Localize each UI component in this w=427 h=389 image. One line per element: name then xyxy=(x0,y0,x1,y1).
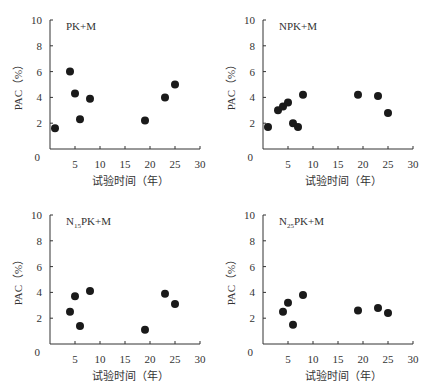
x-tick-label: 15 xyxy=(333,353,345,365)
y-tick-label: 2 xyxy=(250,312,256,324)
scatter-plot: 024681051015202530试验时间（年）PAC（%）NPK+M xyxy=(213,0,426,194)
x-tick-label: 30 xyxy=(408,158,420,170)
panel-title: NPK+M xyxy=(279,20,317,32)
y-tick-label: 6 xyxy=(250,261,256,273)
data-point xyxy=(51,124,59,132)
data-point xyxy=(299,291,307,299)
x-tick-label: 25 xyxy=(170,353,182,365)
y-tick-label: 2 xyxy=(37,312,43,324)
y-tick-label: 0 xyxy=(248,346,254,358)
panel-title: PK+M xyxy=(66,20,96,32)
y-tick-label: 10 xyxy=(244,209,256,221)
x-tick-label: 5 xyxy=(72,158,78,170)
x-axis-label: 试验时间（年） xyxy=(305,369,382,382)
data-point xyxy=(171,300,179,308)
data-point xyxy=(384,109,392,117)
x-tick-label: 10 xyxy=(95,353,107,365)
x-tick-label: 20 xyxy=(358,158,370,170)
data-point xyxy=(141,326,149,334)
data-point xyxy=(374,304,382,312)
axes: 024681051015202530 xyxy=(31,14,206,170)
data-point xyxy=(86,95,94,103)
data-point xyxy=(86,287,94,295)
x-tick-label: 15 xyxy=(333,158,345,170)
data-point xyxy=(299,91,307,99)
panel-title: N25PK+M xyxy=(279,215,324,230)
data-point xyxy=(66,308,74,316)
data-point xyxy=(264,123,272,131)
data-point xyxy=(141,117,149,125)
axes: 024681051015202530 xyxy=(244,14,419,170)
x-tick-label: 15 xyxy=(120,353,132,365)
data-point xyxy=(161,93,169,101)
y-axis-label: PAC（%） xyxy=(12,59,24,111)
data-point xyxy=(374,92,382,100)
data-point xyxy=(171,81,179,89)
data-point xyxy=(279,308,287,316)
y-tick-label: 0 xyxy=(35,346,41,358)
y-tick-label: 0 xyxy=(248,151,254,163)
axes: 024681051015202530 xyxy=(244,209,419,365)
data-point xyxy=(384,309,392,317)
data-point xyxy=(284,99,292,107)
data-point xyxy=(354,91,362,99)
y-tick-label: 6 xyxy=(37,261,43,273)
y-tick-label: 4 xyxy=(250,91,256,103)
y-tick-label: 0 xyxy=(35,151,41,163)
x-tick-label: 25 xyxy=(383,158,395,170)
data-points xyxy=(51,68,179,133)
x-tick-label: 5 xyxy=(72,353,78,365)
data-point xyxy=(354,306,362,314)
y-tick-label: 10 xyxy=(244,14,256,26)
x-tick-label: 20 xyxy=(358,353,370,365)
y-axis-label: PAC（%） xyxy=(225,59,237,111)
chart-panel-n15pk-m: 024681051015202530试验时间（年）PAC（%）N15PK+M xyxy=(0,195,213,389)
axes: 024681051015202530 xyxy=(31,209,206,365)
x-tick-label: 5 xyxy=(285,353,291,365)
data-point xyxy=(71,90,79,98)
chart-panel-pk-m: 024681051015202530试验时间（年）PAC（%）PK+M xyxy=(0,0,213,194)
data-point xyxy=(294,123,302,131)
data-points xyxy=(279,291,392,329)
data-point xyxy=(66,68,74,76)
x-tick-label: 25 xyxy=(383,353,395,365)
x-tick-label: 30 xyxy=(195,353,207,365)
y-tick-label: 2 xyxy=(37,117,43,129)
x-tick-label: 15 xyxy=(120,158,132,170)
y-tick-label: 8 xyxy=(37,40,43,52)
y-tick-label: 6 xyxy=(250,66,256,78)
y-tick-label: 4 xyxy=(250,286,256,298)
x-tick-label: 30 xyxy=(195,158,207,170)
data-point xyxy=(284,299,292,307)
y-axis-label: PAC（%） xyxy=(12,254,24,306)
scatter-plot: 024681051015202530试验时间（年）PAC（%）PK+M xyxy=(0,0,213,194)
x-tick-label: 10 xyxy=(95,158,107,170)
x-tick-label: 25 xyxy=(170,158,182,170)
x-axis-label: 试验时间（年） xyxy=(305,174,382,187)
y-tick-label: 10 xyxy=(31,14,43,26)
y-tick-label: 4 xyxy=(37,286,43,298)
y-axis-label: PAC（%） xyxy=(225,254,237,306)
data-point xyxy=(289,321,297,329)
x-tick-label: 10 xyxy=(308,158,320,170)
x-tick-label: 20 xyxy=(145,353,157,365)
panel-title: N15PK+M xyxy=(66,215,111,230)
x-tick-label: 30 xyxy=(408,353,420,365)
y-tick-label: 6 xyxy=(37,66,43,78)
x-tick-label: 10 xyxy=(308,353,320,365)
data-point xyxy=(76,322,84,330)
chart-panel-npk-m: 024681051015202530试验时间（年）PAC（%）NPK+M xyxy=(213,0,426,194)
x-axis-label: 试验时间（年） xyxy=(92,369,169,382)
y-tick-label: 4 xyxy=(37,91,43,103)
y-tick-label: 8 xyxy=(250,40,256,52)
data-points xyxy=(66,287,179,334)
y-tick-label: 8 xyxy=(250,235,256,247)
data-points xyxy=(264,91,392,131)
y-tick-label: 8 xyxy=(37,235,43,247)
y-tick-label: 10 xyxy=(31,209,43,221)
data-point xyxy=(161,290,169,298)
data-point xyxy=(76,115,84,123)
x-axis-label: 试验时间（年） xyxy=(92,174,169,187)
data-point xyxy=(71,292,79,300)
x-tick-label: 20 xyxy=(145,158,157,170)
